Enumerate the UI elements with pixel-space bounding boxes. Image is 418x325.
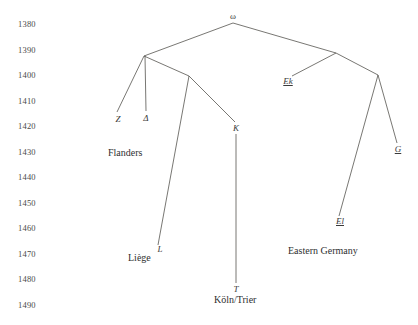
year-axis-tick: 1390: [18, 45, 36, 55]
year-axis-tick: 1420: [18, 121, 36, 131]
region-label-eastern-germany: Eastern Germany: [288, 245, 358, 256]
stemma-edges-layer: [0, 0, 418, 325]
stemma-edge: [117, 56, 144, 112]
year-axis-tick: 1460: [18, 223, 36, 233]
year-axis-tick: 1480: [18, 274, 36, 284]
stemma-edge: [336, 53, 378, 75]
year-axis-tick: 1440: [18, 172, 36, 182]
stemma-edge: [292, 53, 336, 76]
region-label-flanders: Flanders: [108, 147, 142, 158]
stemma-edge: [233, 23, 336, 53]
node-label-g: G: [395, 144, 402, 154]
stemma-edge: [339, 75, 378, 216]
node-label-omega: ω: [230, 11, 236, 21]
year-axis-tick: 1470: [18, 249, 36, 259]
stemma-edge: [158, 76, 189, 245]
year-axis-tick: 1380: [18, 19, 36, 29]
node-label-k: K: [233, 123, 239, 133]
stemma-edge: [189, 76, 235, 122]
region-label-koln-trier: Köln/Trier: [214, 294, 256, 305]
stemma-diagram: 1380139014001410142014301440145014601470…: [0, 0, 418, 325]
year-axis-tick: 1400: [18, 70, 36, 80]
region-label-liege: Liège: [128, 252, 151, 263]
node-label-t: T: [233, 284, 238, 294]
stemma-edge: [378, 75, 397, 143]
stemma-edge: [145, 56, 146, 111]
stemma-edge: [144, 56, 189, 76]
stemma-edge: [144, 23, 233, 56]
year-axis-tick: 1430: [18, 147, 36, 157]
year-axis-tick: 1490: [18, 300, 36, 310]
node-label-delta: Δ: [143, 113, 148, 123]
node-label-ek: Ek: [283, 76, 293, 86]
node-label-l: L: [157, 244, 162, 254]
year-axis-tick: 1450: [18, 198, 36, 208]
node-label-z: Z: [115, 114, 120, 124]
year-axis-tick: 1410: [18, 96, 36, 106]
node-label-el: El: [336, 216, 344, 226]
